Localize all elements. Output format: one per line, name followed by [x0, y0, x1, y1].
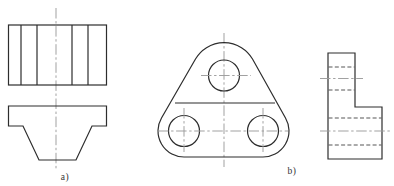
view-label-a: a) — [61, 172, 69, 182]
side-view-outline — [328, 53, 382, 159]
drawing-canvas: a) b) — [0, 0, 394, 186]
view-label-b: b) — [288, 166, 297, 176]
view-a-top-outline — [9, 25, 107, 85]
view-a-front-outline — [9, 106, 107, 160]
technical-drawing — [0, 0, 394, 186]
